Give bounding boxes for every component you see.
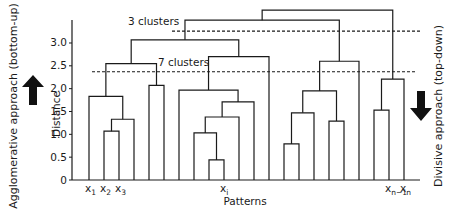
merge-link [205, 117, 239, 180]
y-tick-label: 0 [60, 174, 67, 186]
x-axis-title: Patterns [223, 195, 266, 207]
merge-link [112, 119, 135, 180]
merge-link [382, 79, 405, 180]
merge-link [292, 113, 315, 180]
merge-link [374, 110, 389, 180]
merge-link [209, 160, 224, 180]
dendrogram-figure: Agglomerative approach (bottom-up) Divis… [0, 0, 453, 212]
y-axis-ticks: 00.51.01.52.02.53.0 [50, 36, 72, 185]
y-tick-label: 2.5 [50, 59, 67, 71]
arrow-up-icon [22, 75, 44, 105]
leaf-label: x3 [115, 182, 126, 197]
merge-link [329, 121, 344, 180]
leaf-label: x1 [85, 182, 96, 197]
merge-link [284, 144, 299, 180]
merge-link [149, 85, 164, 180]
merge-link [303, 91, 337, 121]
cut-line-label: 7 clusters [158, 56, 209, 68]
merge-link [222, 102, 254, 180]
arrow-down-icon [410, 91, 432, 121]
leaf-label: x2 [100, 182, 111, 197]
y-tick-label: 3.0 [50, 36, 67, 48]
y-tick-label: 0.5 [50, 151, 67, 163]
dendrogram-links [89, 10, 404, 180]
merge-link [89, 96, 123, 180]
cut-line-label: 3 clusters [128, 15, 179, 27]
y-tick-label: 2.0 [50, 82, 67, 94]
y-tick-label: 1.0 [50, 128, 67, 140]
merge-link [194, 133, 217, 180]
divisive-label: Divisive approach (top-down) [432, 25, 445, 187]
y-tick-label: 1.5 [50, 105, 67, 117]
merge-link [104, 131, 119, 180]
agglomerative-label: Agglomerative approach (bottom-up) [7, 3, 20, 208]
